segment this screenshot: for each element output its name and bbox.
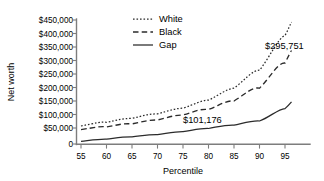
legend: White Black Gap [133, 14, 183, 50]
x-tick-label: 70 [153, 152, 163, 161]
x-tick-label: 95 [280, 152, 290, 161]
y-tick-label: $400,000 [39, 30, 74, 39]
data-annotations: $295,751 $101,176 [183, 41, 304, 126]
legend-label-gap: Gap [159, 40, 177, 50]
x-tick-label: 85 [229, 152, 239, 161]
x-tick-label: 55 [76, 152, 86, 161]
y-tick-label: $200,000 [39, 84, 74, 93]
y-tick-label: $250,000 [39, 70, 74, 79]
x-tick-label: 60 [102, 152, 112, 161]
y-tick-label: $450,000 [39, 16, 74, 25]
y-axis-tick-labels: $450,000 $400,000 $350,000 $300,000 $250… [39, 16, 74, 149]
x-axis-title: Percentile [163, 166, 203, 176]
x-tick-label: 65 [127, 152, 137, 161]
y-axis-title: Net worth [6, 63, 16, 102]
y-tick-label: $300,000 [39, 57, 74, 66]
x-tick-label: 90 [255, 152, 265, 161]
x-axis [77, 144, 311, 148]
y-tick-label: $100,000 [39, 111, 74, 120]
legend-label-black: Black [159, 27, 182, 37]
y-tick-label: $350,000 [39, 43, 74, 52]
chart-canvas: $450,000 $400,000 $350,000 $300,000 $250… [0, 0, 324, 181]
series-line-white [81, 22, 292, 126]
annotation-gap-value: $101,176 [183, 115, 222, 125]
x-tick-label: 80 [204, 152, 214, 161]
net-worth-percentile-chart: $450,000 $400,000 $350,000 $300,000 $250… [0, 0, 324, 181]
y-tick-label: $150,000 [39, 97, 74, 106]
x-axis-tick-labels: 55 60 65 70 75 80 85 90 95 [76, 152, 290, 161]
legend-label-white: White [159, 14, 183, 24]
y-tick-label: $50,000 [43, 124, 73, 133]
y-tick-label: 0 [68, 140, 73, 149]
annotation-white-value: $295,751 [265, 41, 304, 51]
x-tick-label: 75 [178, 152, 188, 161]
y-axis [73, 19, 77, 145]
